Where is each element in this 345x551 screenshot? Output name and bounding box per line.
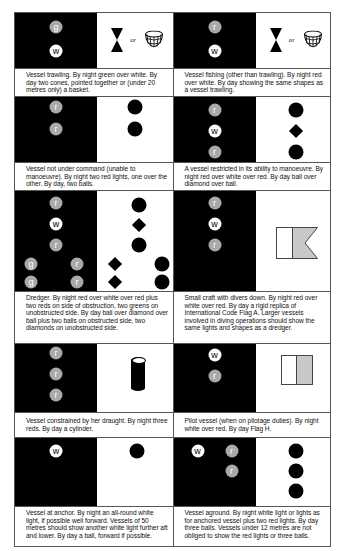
ball-shape [130,444,145,459]
caption: Vessel trawling. By night green over whi… [15,68,173,96]
night-lights: g w [15,13,97,68]
ball-shape [288,484,303,499]
panel-constrained-draught: r r r Vessel constrained by her draught.… [15,344,173,437]
diamond-shape [108,275,122,289]
chart-row: w Vessel at anchor. By night an all-roun… [15,438,330,546]
green-light: g [50,21,63,34]
ball-shape [288,464,303,479]
red-light: r [50,347,63,360]
day-shapes [97,97,173,162]
two-cones-icon [270,28,282,52]
caption: A vessel restricted in its ability to ma… [174,162,331,190]
ball-shape [155,275,170,290]
ball-shape [132,198,147,213]
white-light: w [191,445,204,458]
day-shapes [97,344,173,412]
night-lights: r r r [15,344,97,412]
red-light: r [50,101,63,114]
red-light: r [71,258,84,271]
or-label: or [130,37,135,43]
ball-shape [132,238,147,253]
red-light: r [50,197,63,210]
caption: Vessel fishing (other than trawling). By… [174,68,331,96]
red-light: r [208,146,221,159]
basket-icon [304,31,322,48]
caption: Small craft with divers down. By night r… [174,291,331,343]
diamond-shape [288,124,302,138]
panel-trawling: g w or Vessel trawling. By night green o… [15,13,173,96]
caption: Vessel aground. By night white light or … [174,506,331,546]
flag-h-white-half [282,356,297,384]
white-light: w [50,445,63,458]
red-light: r [50,239,63,252]
night-lights: r w r [174,97,256,162]
red-light: r [225,445,238,458]
red-light: r [208,197,221,210]
red-light: r [225,465,238,478]
green-light: g [25,276,38,289]
day-shapes [256,438,331,506]
day-shapes [97,438,173,506]
diamond-shape [108,257,122,271]
red-light: r [208,239,221,252]
white-light: w [208,349,221,362]
or-label: or [289,37,294,43]
ball-shape [288,103,303,118]
night-lights: w r [174,344,256,412]
red-light: r [208,370,221,383]
navigation-lights-chart: g w or Vessel trawling. By night green o… [14,12,331,547]
red-light: r [208,104,221,117]
ball-shape [128,100,143,115]
red-light: r [50,368,63,381]
white-light: w [208,218,221,231]
red-light: r [208,21,221,34]
night-lights: r w [174,13,256,68]
chart-row: g w or Vessel trawling. By night green o… [15,13,330,97]
night-lights: r w r g g r r [15,191,97,291]
panel-divers-down: r w r Small craft with divers down. By n… [173,191,331,343]
basket-icon [145,31,163,48]
day-shapes [256,344,331,412]
panel-dredger: r w r g g r r Dredger. [15,191,173,343]
cylinder-shape [131,357,145,391]
ball-shape [155,257,170,272]
panel-fishing: r w or Vessel fishing (other than trawli… [173,13,331,96]
chart-row: r w r g g r r Dredger. [15,191,330,344]
white-light: w [50,218,63,231]
panel-pilot-vessel: w r Pilot vessel (when on pilotage dutie… [173,344,331,437]
ball-shape [128,122,143,137]
panel-at-anchor: w Vessel at anchor. By night an all-roun… [15,438,173,546]
day-shapes [256,191,331,291]
red-light: r [50,123,63,136]
red-light: r [71,276,84,289]
flag-h-icon [281,355,313,385]
day-shapes: or [256,13,331,68]
night-lights: w [15,438,97,506]
white-light: w [50,45,63,58]
caption: Vessel at anchor. By night an all-round … [15,506,173,546]
day-shapes [97,191,173,291]
caption: Pilot vessel (when on pilotage duties). … [174,412,331,437]
night-lights: r r [15,97,97,162]
green-light: g [25,258,38,271]
night-lights: r w r [174,191,256,291]
night-lights: w r r [174,438,256,506]
ball-shape [288,444,303,459]
diamond-shape [132,218,146,232]
panel-not-under-command: r r Vessel not under command (unable to … [15,97,173,190]
day-shapes [256,97,331,162]
flag-h-red-half [297,356,312,384]
caption: Vessel constrained by her draught. By ni… [15,412,173,437]
chart-row: r r Vessel not under command (unable to … [15,97,330,191]
panel-aground: w r r Vessel aground. By night white lig… [173,438,331,546]
ball-shape [288,145,303,160]
red-light: r [50,389,63,402]
white-light: w [208,45,221,58]
caption: Vessel not under command (unable to mano… [15,162,173,190]
panel-restricted-ability: r w r A vessel restricted in its ability… [173,97,331,190]
two-cones-icon [111,28,123,52]
chart-row: r r r Vessel constrained by her draught.… [15,344,330,438]
day-shapes: or [97,13,173,68]
caption: Dredger. By night red over white over re… [15,291,173,343]
white-light: w [208,125,221,138]
